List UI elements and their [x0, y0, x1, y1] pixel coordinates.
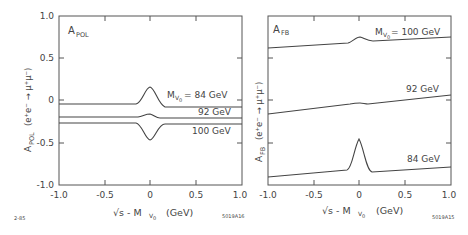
left-x-label: √s - M V 0 (GeV) — [113, 207, 193, 221]
xtick: 0 — [356, 190, 362, 200]
xlabel-0: 0 — [362, 213, 365, 219]
right-x-ticks: -1.0 -0.5 0 0.5 1.0 — [259, 190, 456, 200]
ylabel-reaction: (e⁺e⁻ → μ⁺μ⁻) — [23, 68, 33, 126]
legend-84gev: = 84 GeV — [184, 90, 228, 100]
ytick: 1.0 — [40, 11, 55, 21]
left-y-ticks: 1.0 0.5 0 -0.5 -1.0 — [36, 11, 54, 190]
ylabel-reaction: (e⁺e⁻ → μ⁺μ⁻) — [254, 82, 264, 140]
figure-canvas: 1.0 0.5 0 -0.5 -1.0 -1.0 -0.5 0 0.5 1.0 … — [0, 0, 468, 235]
xtick: -1.0 — [259, 190, 277, 200]
panel-label-sub: POL — [76, 31, 89, 39]
xlabel-main: √s - M — [322, 205, 351, 216]
ylabel-a: A — [254, 155, 264, 162]
ylabel-sub: POL — [28, 132, 36, 145]
xtick: 0.5 — [398, 190, 412, 200]
xlabel-unit: (GeV) — [166, 207, 193, 218]
left-plot — [59, 16, 242, 185]
xtick: 0 — [147, 190, 153, 200]
footer-date: 2-85 — [14, 215, 25, 221]
legend-100gev: = 100 GeV — [391, 27, 441, 37]
label-84gev: 84 GeV — [407, 154, 441, 164]
xtick: -0.5 — [96, 190, 114, 200]
ytick: -1.0 — [36, 180, 54, 190]
legend-0: 0 — [387, 34, 390, 40]
left-x-ticks: -1.0 -0.5 0 0.5 1.0 — [50, 190, 247, 200]
right-panel-label: A FB — [273, 24, 289, 37]
panel-label-a: A — [68, 25, 75, 36]
xlabel-0: 0 — [153, 215, 156, 221]
xtick: -0.5 — [305, 190, 323, 200]
left-y-label: A POL (e⁺e⁻ → μ⁺μ⁻) — [23, 68, 36, 152]
right-legend: M V 0 = 100 GeV 92 GeV 84 GeV — [375, 27, 441, 164]
panel-label-a: A — [273, 24, 280, 35]
label-100gev: 100 GeV — [192, 126, 232, 136]
xlabel-main: √s - M — [113, 207, 142, 218]
xtick: -1.0 — [50, 190, 68, 200]
xtick: 0.5 — [189, 190, 203, 200]
xtick: 1.0 — [442, 190, 457, 200]
left-plot-frame — [59, 16, 242, 185]
label-92gev: 92 GeV — [406, 84, 440, 94]
panel-label-sub: FB — [281, 29, 289, 37]
xlabel-unit: (GeV) — [376, 205, 403, 216]
ylabel-a: A — [23, 145, 33, 152]
footer-left-id: 5019A16 — [222, 213, 245, 219]
curve-afb-92gev — [268, 95, 451, 114]
legend-m: M — [375, 27, 383, 37]
xtick: 1.0 — [233, 190, 248, 200]
right-y-label: A FB (e⁺e⁻ → μ⁺μ⁻) — [254, 82, 267, 162]
legend-0: 0 — [179, 97, 182, 103]
left-panel-label: A POL — [68, 25, 89, 39]
legend-m: M — [167, 90, 175, 100]
ylabel-sub: FB — [259, 147, 267, 155]
ytick: -0.5 — [36, 138, 54, 148]
left-legend: M V 0 = 84 GeV 92 GeV 100 GeV — [167, 90, 232, 136]
ytick: 0.5 — [40, 53, 54, 63]
ytick: 0 — [48, 95, 54, 105]
footer-right-id: 5019A15 — [432, 214, 455, 220]
right-x-label: √s - M V 0 (GeV) — [322, 205, 403, 219]
curve-afb-100gev — [268, 37, 451, 48]
label-92gev: 92 GeV — [198, 107, 232, 117]
